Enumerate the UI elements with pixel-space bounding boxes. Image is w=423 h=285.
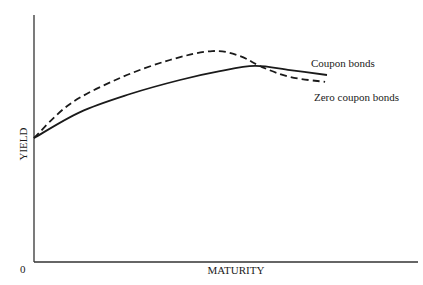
origin-label: 0 (20, 263, 26, 275)
x-axis-label: MATURITY (208, 264, 265, 276)
series-line-zero-coupon-bonds (34, 51, 325, 138)
series-line-coupon-bonds (34, 66, 327, 138)
annotation-coupon-bonds: Coupon bonds (311, 57, 375, 69)
y-axis-label: YIELD (17, 127, 29, 160)
annotation-zero-coupon-bonds: Zero coupon bonds (314, 91, 399, 103)
yield-curve-chart: 0 MATURITY YIELD Coupon bonds Zero coupo… (0, 0, 423, 285)
